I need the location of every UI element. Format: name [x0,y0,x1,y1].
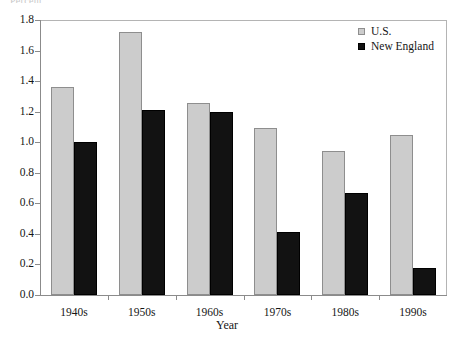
x-tick-label: 1950s [108,306,176,318]
legend-item-new-england: New England [358,39,434,54]
y-tick-label: 1.4 [2,75,34,87]
bar-1940s-new-england [74,142,97,295]
x-tick [176,295,177,300]
x-tick-label: 1990s [379,306,447,318]
legend-label-new-england: New England [371,39,434,54]
x-tick-label: 1940s [40,306,108,318]
x-tick [379,295,380,300]
y-tick-label: 0.8 [2,167,34,179]
legend-item-us: U.S. [358,24,434,39]
y-tick-label: 1.8 [2,14,34,26]
x-tick [311,295,312,300]
bar-1950s-new-england [142,110,165,295]
bar-chart: Percent 0.00.20.40.60.81.01.21.41.61.8 1… [0,0,454,344]
y-axis-line [40,20,41,295]
legend: U.S. New England [358,24,434,54]
y-tick [35,203,40,204]
y-tick [35,234,40,235]
y-tick [35,173,40,174]
bar-1970s-new-england [277,232,300,295]
x-axis-title: Year [0,318,454,333]
x-tick-label: 1980s [311,306,379,318]
y-tick [35,112,40,113]
y-tick [35,142,40,143]
plot-area: 0.00.20.40.60.81.01.21.41.61.8 1940s1950… [40,20,447,295]
legend-swatch-us-icon [358,28,365,35]
bar-1990s-u-s [390,135,413,295]
bar-1990s-new-england [413,268,436,296]
y-tick-label: 1.0 [2,136,34,148]
y-tick-label: 1.2 [2,106,34,118]
x-tick-label: 1960s [176,306,244,318]
legend-swatch-new-england-icon [358,43,365,50]
bar-1970s-u-s [254,128,277,295]
bar-1980s-new-england [345,193,368,295]
bar-1940s-u-s [51,87,74,295]
x-tick [108,295,109,300]
bar-1960s-new-england [210,112,233,295]
y-tick [35,20,40,21]
plot-top-border [40,20,447,21]
y-tick [35,81,40,82]
y-tick-label: 0.6 [2,197,34,209]
legend-label-us: U.S. [371,24,391,39]
y-tick-label: 0.0 [2,289,34,301]
y-tick [35,295,40,296]
plot-right-border [446,20,447,295]
y-tick-label: 1.6 [2,45,34,57]
x-tick-label: 1970s [244,306,312,318]
bar-1960s-u-s [187,103,210,296]
bar-1980s-u-s [322,151,345,295]
y-tick [35,51,40,52]
x-tick [244,295,245,300]
bar-1950s-u-s [119,32,142,295]
y-tick [35,264,40,265]
y-axis-title-clipped: Percent [10,0,42,3]
y-tick-label: 0.2 [2,258,34,270]
y-tick-label: 0.4 [2,228,34,240]
